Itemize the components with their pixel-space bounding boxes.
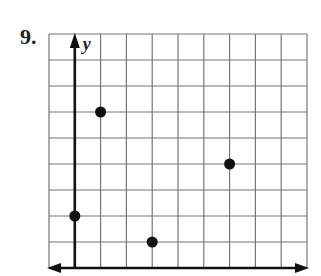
data-point bbox=[69, 211, 80, 222]
data-point bbox=[95, 107, 106, 118]
data-point bbox=[147, 237, 158, 248]
coordinate-grid: y bbox=[0, 0, 321, 276]
data-point bbox=[224, 159, 235, 170]
y-axis-label: y bbox=[81, 34, 92, 54]
y-axis-arrow-icon bbox=[70, 33, 80, 48]
